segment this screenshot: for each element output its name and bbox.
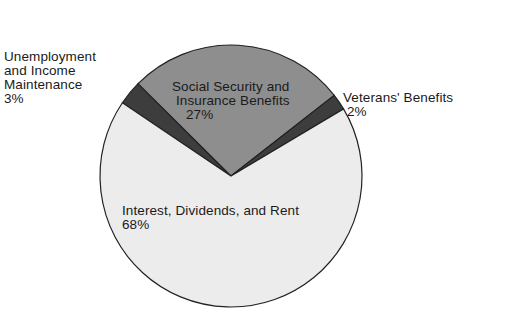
label-veterans-pct: 2%	[343, 105, 453, 119]
label-unemployment-pct: 3%	[4, 92, 96, 106]
label-veterans: Veterans' Benefits 2%	[343, 91, 453, 119]
label-interest-line1: Interest, Dividends, and Rent	[122, 204, 299, 218]
label-interest: Interest, Dividends, and Rent 68%	[122, 204, 299, 232]
label-interest-pct: 68%	[122, 218, 299, 232]
label-unemployment-line2: and Income	[4, 64, 96, 78]
label-social-security-line2: Insurance Benefits	[172, 94, 290, 108]
label-unemployment-line3: Maintenance	[4, 78, 96, 92]
label-social-security-line1: Social Security and	[172, 80, 290, 94]
label-veterans-line1: Veterans' Benefits	[343, 91, 453, 105]
label-social-security-pct: 27%	[172, 108, 290, 122]
label-social-security: Social Security and Insurance Benefits 2…	[172, 80, 290, 122]
label-unemployment: Unemployment and Income Maintenance 3%	[4, 50, 96, 106]
label-unemployment-line1: Unemployment	[4, 50, 96, 64]
